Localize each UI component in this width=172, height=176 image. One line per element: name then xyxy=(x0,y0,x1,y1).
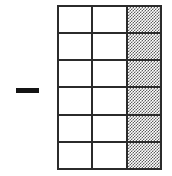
grid-cell-r3c1 xyxy=(59,61,93,88)
unit-square-grid xyxy=(57,5,162,170)
grid-cell-r3c2 xyxy=(93,61,127,88)
grid-cell-r4c2 xyxy=(93,88,127,115)
grid-cell-r1c2 xyxy=(93,7,127,34)
minus-sign-icon xyxy=(16,88,39,93)
grid-cell-r3c3 xyxy=(128,61,162,88)
grid-cell-r4c1 xyxy=(59,88,93,115)
grid-cell-r5c1 xyxy=(59,116,93,143)
grid-cell-r2c3 xyxy=(128,34,162,61)
grid-cell-r6c1 xyxy=(59,143,93,170)
grid-cell-r6c2 xyxy=(93,143,127,170)
grid-cell-r1c3 xyxy=(128,7,162,34)
math-figure xyxy=(0,0,172,176)
grid-cell-r5c3 xyxy=(128,116,162,143)
grid-cell-r2c2 xyxy=(93,34,127,61)
grid-cell-r6c3 xyxy=(128,143,162,170)
grid-cell-r2c1 xyxy=(59,34,93,61)
grid-cell-r1c1 xyxy=(59,7,93,34)
grid-cell-r4c3 xyxy=(128,88,162,115)
grid-cell-r5c2 xyxy=(93,116,127,143)
